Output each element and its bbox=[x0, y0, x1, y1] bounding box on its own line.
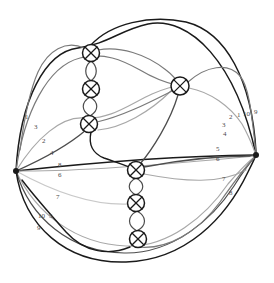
edge-label-right-9: 9 bbox=[254, 109, 258, 116]
edge-label-left-7: 7 bbox=[56, 194, 60, 201]
edge-label-left-1: 1 bbox=[25, 114, 29, 121]
edge-label-right-3: 3 bbox=[222, 122, 226, 129]
edge-label-left-2: 2 bbox=[42, 138, 46, 145]
edge-label-left-5: 5 bbox=[49, 213, 53, 220]
edge-label-left-8: 8 bbox=[58, 162, 62, 169]
crossing-top-1 bbox=[83, 45, 100, 62]
edge-label-right-2: 2 bbox=[229, 114, 233, 121]
link-diagram-figure: 1324867105932110945678 bbox=[0, 0, 274, 283]
crossing-bottom-2 bbox=[128, 195, 145, 212]
edge-label-right-1: 1 bbox=[237, 112, 241, 119]
edge-label-left-3: 3 bbox=[34, 124, 38, 131]
right-vertex bbox=[253, 152, 259, 158]
edge-label-right-8: 8 bbox=[229, 190, 233, 197]
crossing-right-1 bbox=[171, 77, 189, 95]
edge-label-right-10: 10 bbox=[243, 111, 250, 118]
crossing-bottom-3 bbox=[130, 231, 147, 248]
edge-label-left-6: 6 bbox=[58, 172, 62, 179]
edge-label-right-5: 5 bbox=[216, 146, 220, 153]
edge-label-left-10: 10 bbox=[38, 213, 45, 220]
crossing-top-3 bbox=[81, 116, 98, 133]
left-vertex bbox=[13, 168, 19, 174]
edge-label-right-4: 4 bbox=[223, 131, 227, 138]
crossing-top-2 bbox=[83, 81, 100, 98]
edge-label-right-7: 7 bbox=[222, 176, 226, 183]
edge-label-left-4: 4 bbox=[50, 150, 54, 157]
edge-label-right-6: 6 bbox=[216, 156, 220, 163]
crossing-bottom-1 bbox=[128, 162, 145, 179]
edge-label-left-9: 9 bbox=[37, 225, 41, 232]
